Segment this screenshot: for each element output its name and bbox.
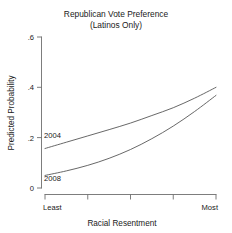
chart-figure: Republican Vote Preference (Latinos Only…: [0, 0, 232, 233]
chart-background: [0, 0, 232, 233]
y-tick-label-0: 0: [30, 184, 34, 193]
chart-subtitle: (Latinos Only): [90, 20, 142, 30]
chart-canvas: Republican Vote Preference (Latinos Only…: [0, 0, 232, 233]
x-axis-label: Racial Resentment: [87, 219, 157, 228]
series-label-2004: 2004: [44, 131, 61, 140]
y-tick-label-2: .4: [28, 83, 34, 92]
x-tick-label-most: Most: [202, 203, 219, 212]
x-tick-label-least: Least: [43, 203, 62, 212]
y-tick-label-3: .6: [28, 33, 34, 42]
series-label-2008: 2008: [44, 174, 61, 183]
y-tick-label-1: .2: [28, 134, 34, 143]
chart-title: Republican Vote Preference: [64, 9, 169, 19]
y-axis-label: Predicted Probability: [7, 75, 16, 151]
